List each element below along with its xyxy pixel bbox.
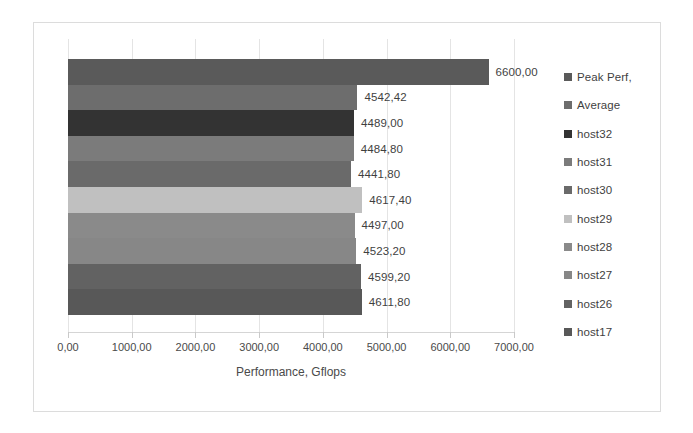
bar-value-label: 4441,80 (351, 168, 400, 180)
legend-label: host29 (577, 213, 612, 225)
chart-frame: 6600,004542,424489,004484,804441,804617,… (33, 22, 661, 412)
bar-row[interactable]: 4489,00 (68, 110, 514, 136)
legend-swatch-icon (564, 271, 572, 279)
plot-area: 6600,004542,424489,004484,804441,804617,… (68, 39, 514, 332)
bar-row[interactable]: 4523,20 (68, 238, 514, 264)
bar-value-label: 4611,80 (362, 296, 410, 308)
bar-value-label: 4523,20 (356, 245, 405, 257)
legend-item-host31[interactable]: host31 (564, 148, 656, 176)
legend-swatch-icon (564, 328, 572, 336)
legend-label: host26 (577, 298, 612, 310)
bar-value-label: 4599,20 (361, 271, 410, 283)
x-tick-label: 7000,00 (494, 341, 534, 353)
legend-label: Peak Perf, (577, 71, 632, 83)
bar-host26[interactable] (68, 264, 361, 290)
tick-mark (132, 332, 133, 338)
bar-row[interactable]: 4617,40 (68, 187, 514, 213)
legend-item-host30[interactable]: host30 (564, 176, 656, 204)
bar-value-label: 6600,00 (489, 66, 538, 78)
legend-item-host32[interactable]: host32 (564, 120, 656, 148)
bar-host27[interactable] (68, 238, 356, 264)
tick-mark (387, 332, 388, 338)
bar-row[interactable]: 4497,00 (68, 213, 514, 239)
bar-average[interactable] (68, 85, 357, 111)
x-tick-label: 1000,00 (112, 341, 152, 353)
bar-value-label: 4497,00 (355, 219, 404, 231)
legend-item-host29[interactable]: host29 (564, 204, 656, 232)
bar-host32[interactable] (68, 110, 354, 136)
gridline (514, 39, 515, 332)
bar-host31[interactable] (68, 136, 354, 162)
legend-label: host28 (577, 241, 612, 253)
legend-swatch-icon (564, 186, 572, 194)
legend-item-host27[interactable]: host27 (564, 261, 656, 289)
legend-item-host26[interactable]: host26 (564, 289, 656, 317)
bar-value-label: 4489,00 (354, 117, 403, 129)
legend-swatch-icon (564, 101, 572, 109)
tick-mark (514, 332, 515, 338)
tick-mark (259, 332, 260, 338)
x-axis-line (68, 332, 514, 333)
bar-row[interactable]: 4484,80 (68, 136, 514, 162)
legend-label: host31 (577, 156, 612, 168)
legend-swatch-icon (564, 300, 572, 308)
x-axis-title: Performance, Gflops (34, 365, 548, 379)
bar-host29[interactable] (68, 187, 362, 213)
bar-host17[interactable] (68, 289, 362, 315)
bar-row[interactable]: 6600,00 (68, 59, 514, 85)
tick-mark (323, 332, 324, 338)
chart-legend: Peak Perf,Averagehost32host31host30host2… (564, 63, 656, 346)
tick-mark (68, 332, 69, 338)
bar-peakperf[interactable] (68, 59, 489, 85)
x-tick-label: 3000,00 (239, 341, 279, 353)
bar-row[interactable]: 4611,80 (68, 289, 514, 315)
tick-mark (450, 332, 451, 338)
bar-value-label: 4484,80 (354, 143, 403, 155)
bar-host28[interactable] (68, 213, 355, 239)
bar-series: 6600,004542,424489,004484,804441,804617,… (68, 59, 514, 315)
x-tick-label: 5000,00 (367, 341, 407, 353)
bar-value-label: 4542,42 (357, 91, 406, 103)
legend-label: Average (577, 99, 620, 111)
legend-item-host17[interactable]: host17 (564, 318, 656, 346)
x-tick-label: 2000,00 (176, 341, 216, 353)
x-tick-label: 6000,00 (430, 341, 470, 353)
bar-row[interactable]: 4542,42 (68, 85, 514, 111)
bar-row[interactable]: 4441,80 (68, 161, 514, 187)
legend-item-host28[interactable]: host28 (564, 233, 656, 261)
legend-label: host27 (577, 269, 612, 281)
legend-label: host32 (577, 128, 612, 140)
legend-item-average[interactable]: Average (564, 91, 656, 119)
bar-row[interactable]: 4599,20 (68, 264, 514, 290)
legend-swatch-icon (564, 130, 572, 138)
legend-label: host30 (577, 184, 612, 196)
bar-value-label: 4617,40 (362, 194, 411, 206)
legend-swatch-icon (564, 215, 572, 223)
tick-mark (195, 332, 196, 338)
legend-swatch-icon (564, 73, 572, 81)
legend-label: host17 (577, 326, 612, 338)
legend-item-peakperf[interactable]: Peak Perf, (564, 63, 656, 91)
bar-host30[interactable] (68, 161, 351, 187)
legend-swatch-icon (564, 243, 572, 251)
legend-swatch-icon (564, 158, 572, 166)
x-tick-label: 4000,00 (303, 341, 343, 353)
x-tick-label: 0,00 (57, 341, 78, 353)
